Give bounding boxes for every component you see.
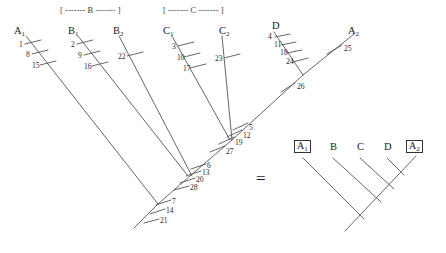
equals-sign: =	[256, 170, 266, 187]
taxon-name: B	[113, 25, 120, 36]
right-branch-d	[387, 158, 404, 175]
taxon-label-d: D	[272, 21, 280, 32]
tick-number-12: 12	[243, 132, 251, 140]
tick-number-15: 15	[32, 62, 40, 70]
taxon-name: D	[384, 141, 392, 152]
bracket-c: [ ------- C ------- ]	[163, 7, 224, 15]
taxon-label-c1: C1	[163, 26, 174, 37]
branch-d	[274, 32, 303, 75]
branch-c2	[222, 36, 232, 140]
tick-18	[287, 50, 302, 53]
tick-number-21: 21	[160, 217, 168, 225]
tick-number-26: 26	[297, 83, 305, 91]
tick-number-19: 19	[235, 139, 243, 147]
tick-25	[327, 45, 342, 54]
taxon-name: A	[14, 25, 22, 36]
tick-7	[156, 200, 171, 205]
tick-number-7: 7	[172, 198, 176, 206]
right-taxon-label-b: B	[330, 142, 337, 153]
taxon-subscript: 2	[226, 30, 230, 38]
right-spine	[345, 156, 416, 231]
taxon-label-b1: B1	[68, 26, 79, 37]
tick-number-9: 9	[78, 52, 82, 60]
phylogeny-canvas	[0, 0, 446, 253]
branch-c1	[172, 36, 230, 140]
tick-3	[178, 42, 194, 46]
tick-number-17: 17	[183, 65, 191, 73]
tick-26	[281, 83, 295, 92]
tick-1	[25, 40, 41, 44]
figure-root: [ ------- B ------- ] [ ------- C ------…	[0, 0, 446, 253]
tick-4	[275, 34, 290, 37]
tick-number-28: 28	[190, 184, 198, 192]
taxon-subscript: 1	[22, 30, 26, 38]
taxon-name: C	[219, 25, 226, 36]
tick-22	[127, 52, 143, 56]
taxon-subscript: 1	[304, 145, 308, 153]
taxon-label-b2: B2	[113, 26, 124, 37]
root-tail	[134, 204, 158, 228]
tick-2	[77, 40, 93, 44]
tick-24	[293, 58, 308, 62]
taxon-label-a2: A2	[348, 26, 359, 37]
tick-21	[144, 219, 159, 223]
taxon-name: C	[357, 141, 364, 152]
taxon-name: A	[348, 25, 356, 36]
tick-number-25: 25	[344, 45, 352, 53]
taxon-name: B	[68, 25, 75, 36]
tick-number-23: 23	[215, 55, 223, 63]
tick-27	[210, 146, 225, 152]
tick-11	[281, 42, 296, 45]
taxon-name: D	[272, 20, 280, 31]
tick-number-2: 2	[71, 41, 75, 49]
branch-b1	[78, 36, 188, 176]
right-taxon-label-a1: A1	[294, 140, 311, 153]
tick-17	[190, 64, 206, 68]
tick-16	[92, 62, 108, 66]
bracket-b: [ ------- B ------- ]	[60, 7, 121, 15]
right-branch-a1	[303, 158, 364, 219]
right-taxon-label-c: C	[357, 142, 364, 153]
tick-number-3: 3	[172, 43, 176, 51]
tick-number-22: 22	[118, 53, 126, 61]
taxon-label-c2: C2	[219, 26, 230, 37]
tick-number-27: 27	[226, 148, 234, 156]
tick-number-10: 10	[177, 54, 185, 62]
right-taxon-label-d: D	[384, 142, 392, 153]
tick-10	[184, 53, 200, 57]
tick-number-18: 18	[280, 49, 288, 57]
tick-number-4: 4	[268, 33, 272, 41]
branch-a1	[26, 36, 158, 204]
right-taxon-label-a2: A2	[406, 140, 423, 153]
taxon-subscript: 2	[416, 145, 420, 153]
tick-number-14: 14	[166, 207, 174, 215]
tick-number-24: 24	[286, 58, 294, 66]
taxon-subscript: 2	[356, 30, 360, 38]
taxon-subscript: 1	[75, 30, 79, 38]
tick-number-16: 16	[84, 63, 92, 71]
tick-5	[233, 123, 248, 130]
taxon-name: B	[330, 141, 337, 152]
taxon-name: C	[163, 25, 170, 36]
internal-branch-c	[190, 140, 232, 176]
tick-23	[224, 54, 240, 58]
tick-number-1: 1	[19, 41, 23, 49]
taxon-subscript: 2	[120, 30, 124, 38]
taxon-subscript: 1	[170, 30, 174, 38]
branch-a2	[303, 34, 354, 75]
taxon-label-a1: A1	[14, 26, 25, 37]
tick-number-8: 8	[26, 51, 30, 59]
